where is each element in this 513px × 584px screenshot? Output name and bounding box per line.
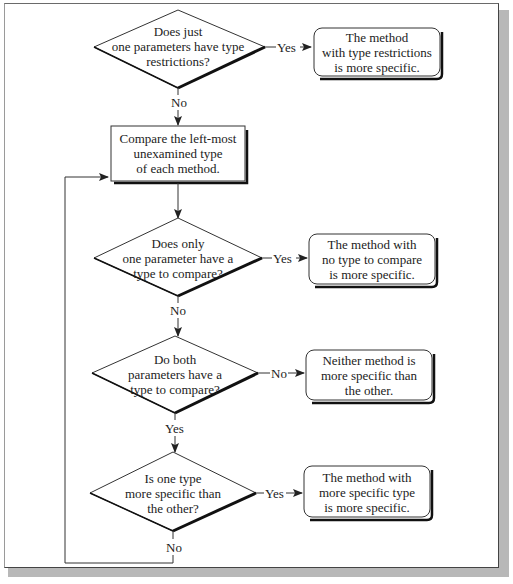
- text-line: type to compare?: [105, 382, 245, 397]
- text-line: Is one type: [103, 471, 243, 486]
- decision-1-text: Does just one parameters have type restr…: [108, 24, 248, 69]
- text-line: Neither method is: [306, 353, 432, 368]
- text-line: is more specific.: [304, 500, 430, 515]
- text-line: one parameter have a: [108, 251, 248, 266]
- decision-2-text: Does only one parameter have a type to c…: [108, 236, 248, 281]
- text-line: more specific type: [304, 485, 430, 500]
- edge-label-d1-yes: Yes: [276, 40, 297, 55]
- flowchart-lines: [0, 0, 513, 584]
- outcome-4-text: The method with more specific type is mo…: [304, 470, 430, 515]
- process-text: Compare the left-most unexamined type of…: [111, 131, 245, 176]
- text-line: the other?: [103, 501, 243, 516]
- outcome-1-text: The method with type restrictions is mor…: [314, 30, 440, 75]
- decision-3-text: Do both parameters have a type to compar…: [105, 352, 245, 397]
- outcome-2-text: The method with no type to compare is mo…: [309, 237, 435, 282]
- text-line: Do both: [105, 352, 245, 367]
- text-line: is more specific.: [309, 267, 435, 282]
- edge-label-d3-yes: Yes: [164, 421, 185, 436]
- text-line: Does only: [108, 236, 248, 251]
- text-line: no type to compare: [309, 252, 435, 267]
- text-line: unexamined type: [111, 146, 245, 161]
- text-line: The method: [314, 30, 440, 45]
- edge-label-d2-no: No: [169, 303, 187, 318]
- decision-4-text: Is one type more specific than the other…: [103, 471, 243, 516]
- edge-label-d3-no: No: [270, 366, 288, 381]
- text-line: Does just: [108, 24, 248, 39]
- text-line: the other.: [306, 383, 432, 398]
- text-line: more specific than: [103, 486, 243, 501]
- text-line: parameters have a: [105, 367, 245, 382]
- text-line: The method with: [309, 237, 435, 252]
- text-line: restrictions?: [108, 54, 248, 69]
- text-line: Compare the left-most: [111, 131, 245, 146]
- text-line: type to compare?: [108, 266, 248, 281]
- text-line: is more specific.: [314, 60, 440, 75]
- outcome-3-text: Neither method is more specific than the…: [306, 353, 432, 398]
- text-line: of each method.: [111, 161, 245, 176]
- edge-label-d1-no: No: [170, 95, 188, 110]
- edge-label-d4-yes: Yes: [264, 486, 285, 501]
- text-line: one parameters have type: [108, 39, 248, 54]
- text-line: The method with: [304, 470, 430, 485]
- text-line: more specific than: [306, 368, 432, 383]
- edge-label-d2-yes: Yes: [272, 251, 293, 266]
- edge-label-d4-no: No: [165, 540, 183, 555]
- text-line: with type restrictions: [314, 45, 440, 60]
